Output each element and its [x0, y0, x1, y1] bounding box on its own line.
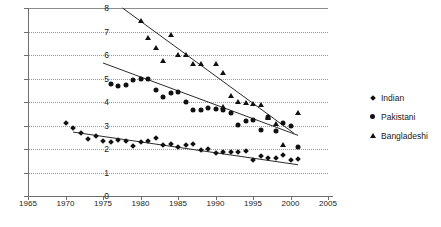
data-point-pakistani: [168, 91, 173, 96]
legend-item-indian[interactable]: Indian: [368, 88, 428, 107]
data-point-bangladeshi: [168, 32, 174, 37]
data-point-bangladeshi: [235, 99, 241, 104]
x-tick-label: 1970: [46, 199, 86, 208]
data-point-bangladeshi: [190, 61, 196, 66]
data-point-bangladeshi: [138, 18, 144, 23]
x-tick-label: 1980: [121, 199, 161, 208]
data-point-bangladeshi: [213, 61, 219, 66]
x-tick-label: 2000: [271, 199, 311, 208]
data-point-pakistani: [206, 105, 211, 110]
legend-item-label: Bangladeshi: [381, 131, 428, 141]
data-point-pakistani: [161, 94, 166, 99]
data-point-pakistani: [258, 127, 263, 132]
data-point-pakistani: [191, 107, 196, 112]
data-point-pakistani: [131, 78, 136, 83]
x-tick-label: 2005: [308, 199, 348, 208]
data-point-bangladeshi: [273, 121, 279, 126]
data-point-bangladeshi: [243, 100, 249, 105]
data-point-bangladeshi: [198, 61, 204, 66]
y-tick-label: 8: [89, 3, 109, 13]
data-point-bangladeshi: [258, 102, 264, 107]
data-point-pakistani: [236, 123, 241, 128]
legend-item-label: Indian: [381, 93, 404, 103]
data-point-pakistani: [273, 128, 278, 133]
x-tick-label: 1985: [158, 199, 198, 208]
legend: IndianPakistaniBangladeshi: [368, 88, 428, 145]
x-tick-label: 1995: [233, 199, 273, 208]
data-point-pakistani: [183, 100, 188, 105]
legend-item-label: Pakistani: [381, 112, 416, 122]
chart-container: 012345678 196519701975198019851990199520…: [0, 0, 441, 227]
diamond-marker-icon: [368, 96, 377, 100]
data-point-pakistani: [146, 77, 151, 82]
data-point-pakistani: [251, 118, 256, 123]
y-tick-label: 4: [89, 97, 109, 107]
data-point-pakistani: [281, 121, 286, 126]
data-point-pakistani: [198, 107, 203, 112]
triangle-marker-icon: [368, 133, 377, 138]
y-tick-label: 3: [89, 121, 109, 131]
data-point-bangladeshi: [280, 142, 286, 147]
data-point-pakistani: [243, 118, 248, 123]
plot-area: [28, 8, 328, 196]
data-point-pakistani: [138, 76, 143, 81]
trend-line-pakistani: [103, 63, 298, 135]
data-point-bangladeshi: [228, 93, 234, 98]
data-point-pakistani: [228, 111, 233, 116]
legend-item-pakistani[interactable]: Pakistani: [368, 107, 428, 126]
data-point-bangladeshi: [160, 58, 166, 63]
data-point-pakistani: [296, 145, 301, 150]
data-point-bangladeshi: [220, 70, 226, 75]
trend-lines: [28, 8, 328, 196]
data-point-bangladeshi: [183, 52, 189, 57]
circle-marker-icon: [368, 114, 377, 119]
x-axis-line: [28, 196, 333, 197]
x-tick-label: 1965: [8, 199, 48, 208]
data-point-pakistani: [153, 88, 158, 93]
x-tick-label: 1990: [196, 199, 236, 208]
data-point-pakistani: [176, 89, 181, 94]
data-point-pakistani: [116, 84, 121, 89]
y-tick-label: 2: [89, 144, 109, 154]
legend-item-bangladeshi[interactable]: Bangladeshi: [368, 126, 428, 145]
data-point-pakistani: [288, 124, 293, 129]
x-tick-label: 1975: [83, 199, 123, 208]
y-tick-label: 1: [89, 168, 109, 178]
data-point-bangladeshi: [153, 45, 159, 50]
y-tick-label: 6: [89, 50, 109, 60]
data-point-bangladeshi: [220, 104, 226, 109]
data-point-bangladeshi: [250, 101, 256, 106]
data-point-bangladeshi: [265, 115, 271, 120]
y-tick-label: 5: [89, 74, 109, 84]
data-point-pakistani: [123, 82, 128, 87]
data-point-bangladeshi: [295, 110, 301, 115]
y-tick-label: 7: [89, 27, 109, 37]
data-point-pakistani: [213, 106, 218, 111]
data-point-bangladeshi: [175, 52, 181, 57]
data-point-bangladeshi: [145, 35, 151, 40]
